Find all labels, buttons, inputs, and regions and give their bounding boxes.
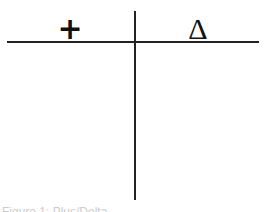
plus-header: + xyxy=(40,14,100,44)
delta-header: Δ xyxy=(168,14,228,44)
delta-column xyxy=(137,44,259,200)
horizontal-divider xyxy=(7,41,259,43)
vertical-divider xyxy=(134,11,136,200)
plus-column xyxy=(7,44,134,200)
caption: Figure 1: Plus/Delta xyxy=(2,205,107,212)
